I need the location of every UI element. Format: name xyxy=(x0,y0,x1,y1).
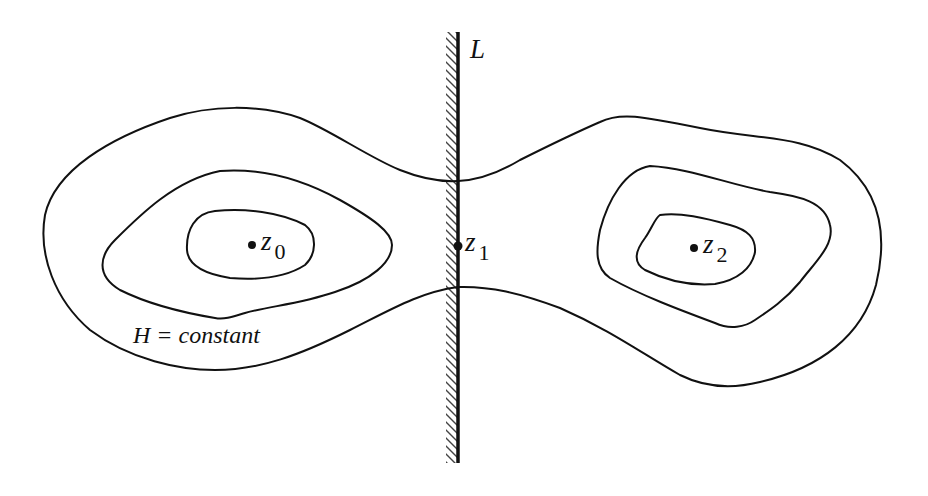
z0-subscript: 0 xyxy=(275,239,286,264)
wall-label-L: L xyxy=(470,36,485,63)
z2-base: z xyxy=(703,229,714,259)
z1-base: z xyxy=(465,227,476,257)
point-z0-dot xyxy=(248,241,256,249)
point-z1-label: z1 xyxy=(465,229,490,256)
left-middle-contour xyxy=(103,170,393,318)
point-z0-label: z0 xyxy=(261,228,286,255)
point-z2-label: z2 xyxy=(703,231,728,258)
z0-base: z xyxy=(261,226,272,256)
z1-subscript: 1 xyxy=(479,240,490,265)
h-constant-label: H = constant xyxy=(133,323,260,347)
z2-subscript: 2 xyxy=(717,242,728,267)
level-set-figure xyxy=(0,0,928,496)
point-z1-dot xyxy=(454,242,463,251)
point-z2-dot xyxy=(690,244,698,252)
